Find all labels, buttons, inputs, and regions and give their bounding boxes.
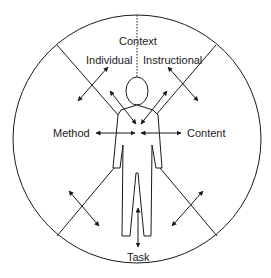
divider-lower-left — [57, 168, 114, 236]
divider-lower-right — [160, 168, 217, 236]
arrow-individual-outer — [78, 67, 108, 101]
label-task: Task — [127, 251, 150, 263]
label-context: Context — [119, 35, 157, 47]
label-instructional: Instructional — [143, 54, 202, 66]
label-individual: Individual — [86, 54, 132, 66]
person-head — [126, 77, 148, 105]
label-content: Content — [187, 127, 226, 139]
arrow-lower-right — [172, 191, 203, 226]
arrow-lower-left — [69, 191, 99, 226]
label-method: Method — [53, 127, 90, 139]
